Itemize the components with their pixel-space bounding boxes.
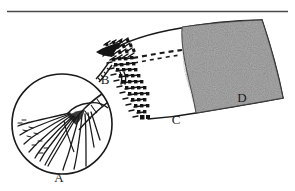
magnifier-circle — [12, 74, 114, 174]
figure-drawing: A B C D — [0, 0, 295, 191]
label-A: A — [54, 170, 64, 185]
label-B: B — [101, 72, 110, 87]
dashed-vein — [133, 50, 182, 63]
figure-container: A B C D — [0, 0, 295, 191]
label-C: C — [172, 112, 181, 127]
label-D: D — [237, 90, 246, 105]
